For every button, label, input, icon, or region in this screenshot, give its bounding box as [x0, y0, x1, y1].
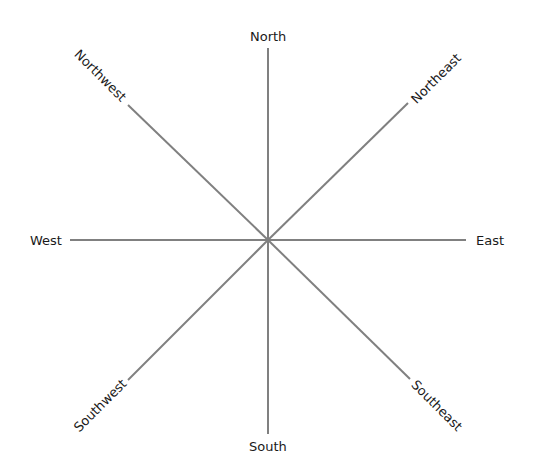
northwest-line [128, 105, 268, 240]
north-label: North [250, 30, 286, 43]
compass-lines [0, 0, 538, 473]
south-label: South [249, 440, 287, 453]
west-label: West [30, 234, 62, 247]
southeast-line [268, 240, 410, 379]
southwest-line [128, 240, 268, 380]
northeast-line [268, 103, 408, 240]
east-label: East [476, 234, 504, 247]
